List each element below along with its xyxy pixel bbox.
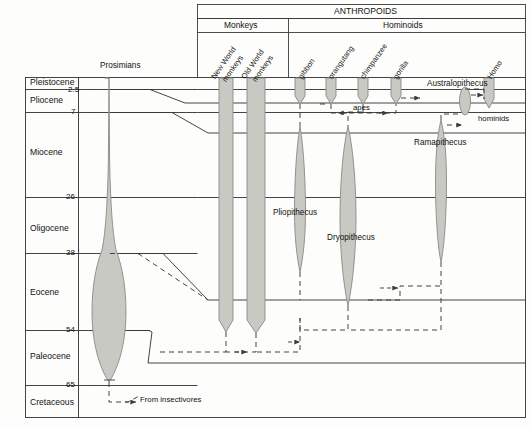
boundary-age-38: 38 — [66, 249, 75, 257]
gibbon-lineage — [295, 78, 305, 104]
column-label-prosimians: Prosimians — [100, 62, 141, 70]
bracket-label-apes: apes — [353, 104, 370, 112]
gorilla-lineage — [391, 78, 401, 104]
epoch-eocene: Eocene — [30, 288, 59, 297]
chimpanzee-lineage — [358, 78, 368, 104]
epoch-paleocene: Paleocene — [30, 352, 71, 361]
evolution-chart-figure: ANTHROPOIDS Monkeys Hominoids Prosimians… — [0, 0, 531, 427]
taxon-label-pliopithecus: Pliopithecus — [273, 209, 317, 217]
boundary-age-2-5: 2.5 — [68, 86, 79, 94]
rama-to-austro-dash — [441, 114, 462, 120]
header-group-hominoids: Hominoids — [383, 21, 423, 29]
old-world-monkey-lineage — [247, 78, 265, 333]
taxon-label-ramapithecus: Ramapithecus — [414, 139, 466, 147]
time-chart-frame — [26, 78, 526, 418]
orangutang-lineage — [326, 78, 336, 104]
taxon-label-dryopithecus: Dryopithecus — [327, 234, 375, 242]
boundary-age-26: 26 — [66, 193, 75, 201]
ramapithecus-root — [348, 262, 441, 330]
pliopithecus-lineage — [295, 126, 306, 272]
dryopithecus-lineage — [340, 126, 356, 306]
prosimian-lineage — [92, 78, 126, 382]
australopithecus-lineage — [460, 87, 471, 115]
divergence-connector-lines — [110, 90, 525, 364]
apes-bracket — [331, 98, 420, 113]
epoch-pliocene: Pliocene — [30, 96, 63, 105]
epoch-oligocene: Oligocene — [30, 224, 69, 233]
rama-side — [368, 286, 440, 300]
boundary-age-7: 7 — [71, 108, 75, 116]
origin-note-from-insectivores: From insectivores — [140, 396, 202, 404]
bracket-label-hominids: hominids — [478, 115, 509, 123]
epoch-miocene: Miocene — [30, 148, 62, 157]
taxon-label-australopithecus: Australopithecus — [427, 80, 488, 88]
owm-root — [226, 333, 256, 352]
epoch-cretaceous: Cretaceous — [30, 398, 74, 407]
new-world-monkey-lineage — [219, 78, 233, 332]
prosimian-branch-diag — [138, 254, 208, 301]
insectivore-root — [109, 382, 139, 402]
nwm-root — [160, 332, 226, 352]
boundary-age-54: 54 — [66, 326, 75, 334]
dryo-pliop-link — [300, 306, 348, 330]
boundary-age-65: 65 — [66, 381, 75, 389]
header-group-monkeys: Monkeys — [224, 21, 258, 29]
header-anthropoids: ANTHROPOIDS — [334, 7, 397, 16]
